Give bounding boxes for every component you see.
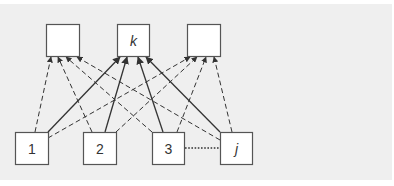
nodes-group: k123j bbox=[16, 25, 253, 165]
bottom-node-2: 2 bbox=[84, 133, 117, 165]
bottom-node-3: 3 bbox=[153, 133, 185, 165]
bottom-node-j: j bbox=[221, 133, 253, 165]
edge-j-to-top-right bbox=[214, 57, 232, 132]
bottom-node-1: 1 bbox=[16, 133, 49, 165]
edge-3-to-top-right bbox=[177, 57, 206, 132]
edge-1-to-top-left bbox=[35, 57, 51, 132]
edge-j-to-k bbox=[146, 57, 220, 132]
node-label: k bbox=[130, 33, 138, 49]
edge-1-to-top-right bbox=[48, 57, 190, 138]
node-box bbox=[188, 25, 221, 57]
edge-j-to-top-left bbox=[77, 57, 220, 140]
node-label: 1 bbox=[28, 141, 36, 157]
top-node-top-right bbox=[188, 25, 221, 57]
node-label: 3 bbox=[165, 141, 173, 157]
edge-2-to-top-left bbox=[58, 57, 92, 132]
network-diagram: k123j bbox=[0, 0, 394, 186]
edges-group bbox=[35, 57, 232, 140]
top-node-k: k bbox=[118, 25, 150, 57]
top-node-top-left bbox=[47, 25, 80, 57]
node-label: 2 bbox=[96, 141, 104, 157]
node-box bbox=[47, 25, 80, 57]
